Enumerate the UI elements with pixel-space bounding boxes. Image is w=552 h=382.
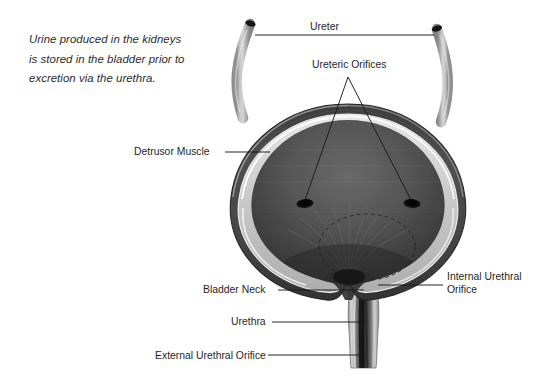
right-ureter — [431, 24, 449, 122]
label-ureter: Ureter — [310, 20, 339, 33]
internal-urethral-orifice-opening — [333, 269, 365, 285]
intro-caption: Urine produced in the kidneys is stored … — [29, 30, 239, 89]
label-detrusor-muscle: Detrusor Muscle — [134, 145, 210, 158]
caption-line-2: is stored in the bladder prior to — [29, 53, 185, 65]
label-external-urethral-orifice: External Urethral Orifice — [155, 349, 266, 362]
diagram-canvas: Urine produced in the kidneys is stored … — [0, 0, 552, 382]
label-urethra: Urethra — [231, 315, 266, 328]
caption-line-1: Urine produced in the kidneys — [29, 33, 181, 45]
label-internal-urethral-orifice: Internal Urethral Orifice — [447, 270, 543, 296]
label-bladder-neck: Bladder Neck — [203, 283, 265, 296]
label-ureteric-orifices: Ureteric Orifices — [312, 58, 386, 71]
caption-line-3: excretion via the urethra. — [29, 72, 156, 84]
label-internal-urethral-orifice-line-1: Internal Urethral — [447, 271, 522, 282]
label-internal-urethral-orifice-line-2: Orifice — [447, 284, 477, 295]
